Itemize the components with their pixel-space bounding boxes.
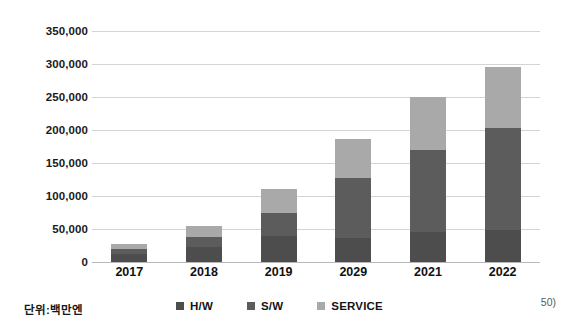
- bar-segment-sw[interactable]: [485, 128, 521, 230]
- legend-label: S/W: [261, 300, 283, 312]
- bar-group[interactable]: [261, 189, 297, 262]
- bar-segment-service[interactable]: [261, 189, 297, 212]
- bar-group[interactable]: [111, 244, 147, 262]
- bar-segment-service[interactable]: [186, 226, 222, 237]
- bar-group[interactable]: [186, 226, 222, 262]
- bar-segment-sw[interactable]: [261, 213, 297, 236]
- legend-label: SERVICE: [331, 300, 383, 312]
- bar-segment-sw[interactable]: [186, 237, 222, 248]
- bar-segment-sw[interactable]: [410, 150, 446, 233]
- bar-segment-hw[interactable]: [261, 236, 297, 262]
- bar-stack: [261, 189, 297, 262]
- legend-swatch-icon: [247, 302, 255, 310]
- bars-layer: [92, 0, 540, 295]
- legend-item[interactable]: H/W: [176, 300, 213, 312]
- legend: H/WS/WSERVICE: [176, 300, 417, 312]
- y-tick-label: 350,000: [8, 25, 88, 37]
- legend-swatch-icon: [317, 302, 325, 310]
- x-tick-label: 2018: [190, 265, 218, 279]
- x-axis: 201720182019202920212022: [92, 265, 540, 289]
- y-tick-label: 250,000: [8, 91, 88, 103]
- bar-segment-service[interactable]: [410, 97, 446, 150]
- x-tick-label: 2022: [489, 265, 517, 279]
- legend-label: H/W: [190, 300, 213, 312]
- bar-stack: [186, 226, 222, 262]
- bar-segment-hw[interactable]: [186, 247, 222, 262]
- y-tick-label: 50,000: [8, 223, 88, 235]
- bar-segment-service[interactable]: [485, 67, 521, 128]
- y-tick-label: 150,000: [8, 157, 88, 169]
- bar-stack: [335, 139, 371, 262]
- stacked-bar-chart: 050,000100,000150,000200,000250,000300,0…: [0, 0, 566, 335]
- bar-segment-hw[interactable]: [410, 232, 446, 262]
- x-tick-label: 2017: [115, 265, 143, 279]
- bar-stack: [111, 244, 147, 262]
- x-tick-label: 2029: [339, 265, 367, 279]
- bar-segment-sw[interactable]: [335, 178, 371, 238]
- y-tick-label: 200,000: [8, 124, 88, 136]
- chart-footer: 단위:백만엔 H/WS/WSERVICE 50): [0, 296, 566, 335]
- bar-segment-service[interactable]: [335, 139, 371, 178]
- legend-swatch-icon: [176, 302, 184, 310]
- legend-item[interactable]: S/W: [247, 300, 283, 312]
- y-tick-label: 0: [8, 256, 88, 268]
- bar-stack: [410, 97, 446, 262]
- x-tick-label: 2019: [265, 265, 293, 279]
- x-tick-label: 2021: [414, 265, 442, 279]
- plot-area: 050,000100,000150,000200,000250,000300,0…: [0, 0, 566, 295]
- legend-item[interactable]: SERVICE: [317, 300, 383, 312]
- y-axis: 050,000100,000150,000200,000250,000300,0…: [8, 0, 88, 295]
- y-tick-label: 100,000: [8, 190, 88, 202]
- bar-segment-hw[interactable]: [335, 238, 371, 262]
- bar-segment-hw[interactable]: [111, 254, 147, 262]
- bar-group[interactable]: [335, 139, 371, 262]
- unit-label: 단위:백만엔: [24, 301, 83, 317]
- bar-segment-hw[interactable]: [485, 230, 521, 262]
- bar-group[interactable]: [410, 97, 446, 262]
- bar-group[interactable]: [485, 67, 521, 262]
- footnote: 50): [541, 296, 556, 308]
- bar-stack: [485, 67, 521, 262]
- y-tick-label: 300,000: [8, 58, 88, 70]
